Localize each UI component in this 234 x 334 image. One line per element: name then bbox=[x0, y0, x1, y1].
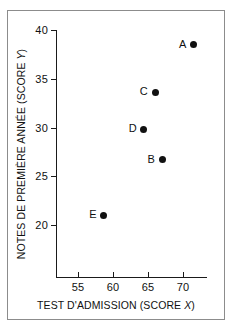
x-axis-tick bbox=[113, 272, 114, 278]
x-axis-tick bbox=[148, 272, 149, 278]
x-axis-tick bbox=[183, 272, 184, 278]
x-axis-tick-label: 55 bbox=[63, 281, 93, 293]
y-axis-title-variable: Y bbox=[15, 52, 27, 59]
x-axis-tick bbox=[78, 272, 79, 278]
x-axis-tick-label: 60 bbox=[98, 281, 128, 293]
x-axis-title-prefix: TEST D'ADMISSION (SCORE bbox=[37, 299, 184, 311]
x-axis-title-suffix: ) bbox=[191, 299, 195, 311]
data-point-label-a: A bbox=[167, 38, 187, 50]
y-axis-tick bbox=[51, 225, 57, 226]
data-point-a bbox=[190, 41, 197, 48]
data-point-label-d: D bbox=[117, 122, 137, 134]
y-axis-tick bbox=[51, 30, 57, 31]
x-axis-title: TEST D'ADMISSION (SCORE X) bbox=[7, 299, 225, 311]
x-axis-tick-label: 65 bbox=[133, 281, 163, 293]
data-point-label-e: E bbox=[77, 208, 97, 220]
scatter-plot-figure: 2025303540 55606570 ABCDE TEST D'ADMISSI… bbox=[0, 0, 234, 334]
y-axis-tick bbox=[51, 176, 57, 177]
y-axis-title-prefix: NOTES DE PREMIÈRE ANNÉE (SCORE bbox=[15, 60, 27, 260]
y-axis-tick bbox=[51, 79, 57, 80]
data-point-d bbox=[140, 126, 147, 133]
y-axis-title-suffix: ) bbox=[15, 49, 27, 53]
plot-area: 2025303540 55606570 ABCDE TEST D'ADMISSI… bbox=[0, 0, 234, 334]
data-point-label-c: C bbox=[128, 85, 148, 97]
x-axis-tick-label: 70 bbox=[168, 281, 198, 293]
data-point-e bbox=[100, 212, 107, 219]
data-point-c bbox=[152, 89, 159, 96]
y-axis-line bbox=[56, 30, 57, 278]
data-point-b bbox=[159, 156, 166, 163]
y-axis-title: NOTES DE PREMIÈRE ANNÉE (SCORE Y) bbox=[15, 29, 27, 279]
y-axis-tick bbox=[51, 128, 57, 129]
data-point-label-b: B bbox=[135, 153, 155, 165]
